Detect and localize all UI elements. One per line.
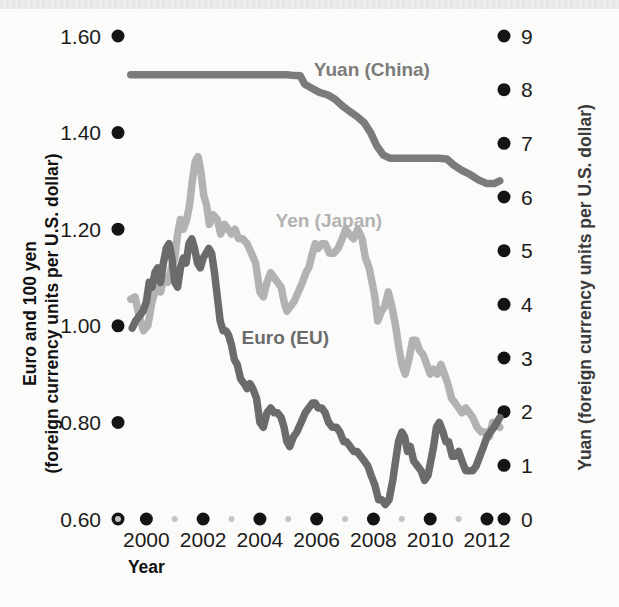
y-tick-label-right: 7 — [521, 132, 533, 155]
x-tick-label: 2002 — [180, 528, 227, 551]
x-tick-label: 2004 — [237, 528, 284, 551]
y-tick-dot-right — [498, 513, 511, 526]
y-tick-label-right: 4 — [521, 293, 533, 316]
exchange-rate-line-chart: 0.600.801.001.201.401.600123456789200020… — [0, 0, 619, 607]
y-tick-label-left: 1.00 — [60, 314, 101, 337]
x-tick-dot-major — [480, 513, 493, 526]
y-tick-label-right: 1 — [521, 454, 533, 477]
x-tick-dot-major — [367, 513, 380, 526]
x-tick-label: 2008 — [350, 528, 397, 551]
y-tick-dot-right — [498, 244, 511, 257]
x-tick-label: 2006 — [293, 528, 340, 551]
y-axis-title-left-line2: (foreign currency units per U.S. dollar) — [42, 154, 62, 474]
y-tick-label-right: 9 — [521, 25, 533, 48]
y-tick-label-right: 6 — [521, 186, 533, 209]
x-tick-dot-minor — [399, 516, 405, 522]
series-label-yen: Yen (Japan) — [276, 210, 383, 231]
x-tick-dot-minor — [456, 516, 462, 522]
y-axis-title-right: Yuan (foreign currency units per U.S. do… — [575, 104, 595, 471]
y-tick-label-left: 1.20 — [60, 218, 101, 241]
y-tick-label-right: 0 — [521, 508, 533, 531]
y-tick-label-left: 1.60 — [60, 25, 101, 48]
y-tick-dot-left — [112, 319, 125, 332]
x-axis-title: Year — [128, 557, 165, 577]
y-tick-label-left: 0.80 — [60, 411, 101, 434]
x-tick-label: 2012 — [464, 528, 511, 551]
y-tick-dot-right — [498, 30, 511, 43]
chart-figure: 0.600.801.001.201.401.600123456789200020… — [0, 0, 619, 607]
y-tick-label-left: 0.60 — [60, 508, 101, 531]
y-tick-label-right: 3 — [521, 347, 533, 370]
series-line-yen — [131, 157, 500, 437]
x-tick-dot-major — [140, 513, 153, 526]
series-line-yuan — [131, 75, 500, 184]
y-tick-label-right: 5 — [521, 239, 533, 262]
y-tick-dot-left — [112, 30, 125, 43]
y-tick-dot-left — [112, 223, 125, 236]
y-tick-label-right: 8 — [521, 78, 533, 101]
x-tick-label: 2000 — [123, 528, 170, 551]
x-tick-dot-minor — [115, 516, 121, 522]
y-tick-dot-right — [498, 191, 511, 204]
x-tick-dot-minor — [342, 516, 348, 522]
x-tick-dot-major — [424, 513, 437, 526]
x-tick-dot-major — [197, 513, 210, 526]
y-tick-dot-right — [498, 298, 511, 311]
y-tick-dot-right — [498, 137, 511, 150]
y-tick-dot-left — [112, 126, 125, 139]
series-label-yuan: Yuan (China) — [314, 59, 430, 80]
y-tick-dot-right — [498, 83, 511, 96]
y-tick-dot-right — [498, 352, 511, 365]
x-tick-dot-minor — [229, 516, 235, 522]
x-tick-label: 2010 — [407, 528, 454, 551]
x-tick-dot-major — [310, 513, 323, 526]
y-tick-dot-right — [498, 459, 511, 472]
x-tick-dot-minor — [172, 516, 178, 522]
y-tick-dot-left — [112, 416, 125, 429]
series-label-euro: Euro (EU) — [241, 327, 329, 348]
x-tick-dot-major — [253, 513, 266, 526]
y-axis-title-left-line1: Euro and 100 yen — [20, 241, 40, 386]
y-tick-label-left: 1.40 — [60, 121, 101, 144]
y-tick-label-right: 2 — [521, 400, 533, 423]
x-tick-dot-minor — [285, 516, 291, 522]
